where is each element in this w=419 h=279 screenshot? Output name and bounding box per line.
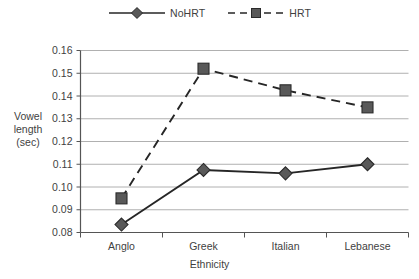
data-point-marker-square (280, 85, 291, 96)
y-tick-label: 0.16 (52, 44, 73, 56)
x-axis-title: Ethnicity (0, 258, 419, 270)
y-tick-label: 0.11 (53, 158, 73, 170)
data-point-marker-diamond (197, 163, 210, 176)
y-tick-label: 0.14 (52, 90, 73, 102)
series-line-hrt (122, 69, 368, 199)
data-point-marker-square (116, 193, 127, 204)
data-point-marker-square (362, 102, 373, 113)
y-tick-label: 0.13 (52, 112, 73, 124)
y-tick-label: 0.12 (52, 135, 73, 147)
x-tick-label: Anglo (108, 240, 135, 252)
data-point-marker-square (198, 63, 209, 74)
plot-area: 0.160.150.140.130.120.110.100.090.08Angl… (0, 0, 419, 279)
x-tick-label: Lebanese (344, 240, 390, 252)
y-tick-label: 0.15 (52, 67, 73, 79)
vowel-length-line-chart: NoHRT HRT Vowel length (sec) 0.160.150.1… (0, 0, 419, 279)
data-point-marker-diamond (279, 167, 292, 180)
y-tick-label: 0.09 (52, 203, 73, 215)
y-tick-label: 0.08 (52, 226, 73, 238)
x-tick-label: Italian (271, 240, 299, 252)
data-point-marker-diamond (115, 218, 128, 231)
series-line-nohrt (122, 164, 368, 224)
y-tick-label: 0.10 (52, 181, 73, 193)
x-tick-label: Greek (189, 240, 218, 252)
data-point-marker-diamond (361, 158, 374, 171)
